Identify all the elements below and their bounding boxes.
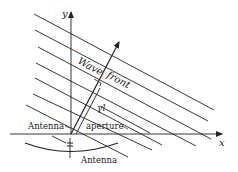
aperture-label: aperture bbox=[86, 121, 124, 131]
x-axis-label: x bbox=[219, 137, 225, 148]
antenna-dish bbox=[25, 143, 118, 152]
wavefront-line bbox=[52, 136, 66, 143]
wavefront-diagram: y x Wave front γl Antenna aperture Anten… bbox=[0, 0, 238, 172]
y-axis-label: y bbox=[61, 8, 68, 19]
wave-label: Wave bbox=[76, 55, 105, 77]
wavefront-line bbox=[34, 14, 214, 110]
antenna-left-label: Antenna bbox=[27, 121, 64, 131]
front-label: front bbox=[104, 69, 133, 91]
antenna-bottom-label: Antenna bbox=[80, 155, 117, 165]
gamma-l-label: γl bbox=[97, 103, 105, 113]
